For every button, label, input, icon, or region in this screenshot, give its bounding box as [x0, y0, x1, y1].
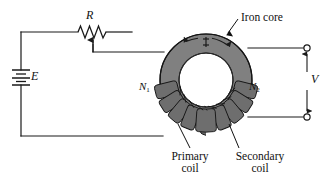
primary-coil-label-line2: coil: [181, 162, 198, 174]
resistor-label: R: [86, 9, 93, 22]
secondary-coil-label: Secondary coil: [216, 150, 304, 174]
iron-core-leader: [228, 19, 238, 33]
voltage-label: V: [311, 73, 318, 86]
terminal-bottom: [304, 114, 310, 120]
battery-symbol: [12, 70, 30, 85]
secondary-coil-label-line2: coil: [251, 162, 268, 174]
resistor-symbol: [78, 26, 106, 38]
transformer-circuit-diagram: R E V N1 N2 Iron core Primary coil Secon…: [0, 0, 330, 181]
secondary-turns-label: N2: [249, 81, 260, 93]
primary-turns-label: N1: [139, 81, 150, 93]
iron-core-label: Iron core: [241, 11, 283, 23]
secondary-turns-subscript: 2: [256, 86, 260, 94]
emf-label: E: [31, 70, 38, 83]
secondary-coil-leader: [229, 124, 239, 148]
primary-coil-label-line1: Primary: [171, 150, 208, 162]
secondary-coil-label-line1: Secondary: [236, 150, 285, 162]
primary-turns-subscript: 1: [146, 86, 150, 94]
terminal-top: [304, 45, 310, 51]
